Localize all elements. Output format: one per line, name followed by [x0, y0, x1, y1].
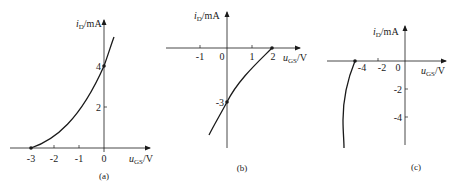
figure-canvas: -3 -2 -1 0 2 4 iD/mA uGS/V (a) -1 0 1 2 … — [0, 0, 452, 184]
chart-b-xtick-label: 0 — [220, 51, 225, 62]
chart-b-curve — [209, 48, 272, 135]
chart-b-xtick-label: -1 — [196, 51, 204, 62]
chart-a-point — [102, 64, 106, 68]
chart-c-curve — [343, 61, 355, 148]
chart-b: -1 0 1 2 -3 iD/mA uGS/V (b) — [166, 10, 308, 173]
chart-c-point — [353, 59, 357, 63]
chart-c: -4 -2 0 -2 -4 iD/mA uGS/V (c) — [327, 26, 446, 172]
chart-a-xtick-label: -1 — [75, 153, 83, 164]
chart-c-ytick-label: -2 — [394, 84, 402, 95]
chart-a-caption: (a) — [99, 171, 109, 181]
chart-b-point — [270, 46, 274, 50]
chart-a-xlabel: uGS/V — [129, 153, 154, 166]
chart-a-ytick-label: 4 — [96, 61, 101, 72]
chart-a-xtick-label: -3 — [27, 153, 35, 164]
chart-a-xtick-label: 0 — [102, 153, 107, 164]
chart-a-xtick-label: -2 — [50, 153, 58, 164]
chart-a-ytick-label: 2 — [96, 102, 101, 113]
chart-c-caption: (c) — [411, 162, 421, 172]
chart-b-xtick-label: 1 — [250, 51, 255, 62]
chart-c-xlabel: uGS/V — [421, 65, 446, 78]
chart-c-ytick-label: -4 — [394, 112, 402, 123]
chart-b-ytick-label: -3 — [216, 97, 224, 108]
chart-c-xtick-label: -2 — [378, 62, 386, 73]
chart-b-caption: (b) — [237, 163, 248, 173]
chart-b-ylabel: iD/mA — [194, 10, 220, 23]
chart-a-ylabel: iD/mA — [76, 18, 102, 31]
chart-a: -3 -2 -1 0 2 4 iD/mA uGS/V (a) — [10, 18, 154, 181]
chart-b-point — [225, 100, 229, 104]
chart-b-xlabel: uGS/V — [283, 52, 308, 65]
chart-a-point — [29, 146, 33, 150]
chart-c-ylabel: iD/mA — [373, 26, 399, 39]
chart-a-curve — [31, 37, 114, 148]
chart-b-xtick-label: 2 — [271, 51, 276, 62]
chart-c-xtick-label: 0 — [396, 62, 401, 73]
chart-c-xtick-label: -4 — [358, 62, 366, 73]
